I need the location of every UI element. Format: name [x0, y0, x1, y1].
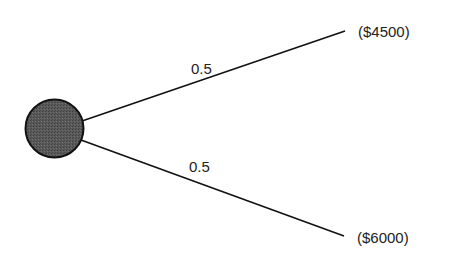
branch-outcome-upper: ($4500)	[358, 24, 410, 39]
chance-node-circle	[26, 100, 84, 158]
branch-line-upper	[82, 31, 345, 121]
branch-probability-upper: 0.5	[191, 61, 212, 76]
branch-outcome-lower: ($6000)	[357, 230, 409, 245]
branch-line-lower	[81, 140, 344, 236]
branch-probability-lower: 0.5	[189, 159, 210, 174]
